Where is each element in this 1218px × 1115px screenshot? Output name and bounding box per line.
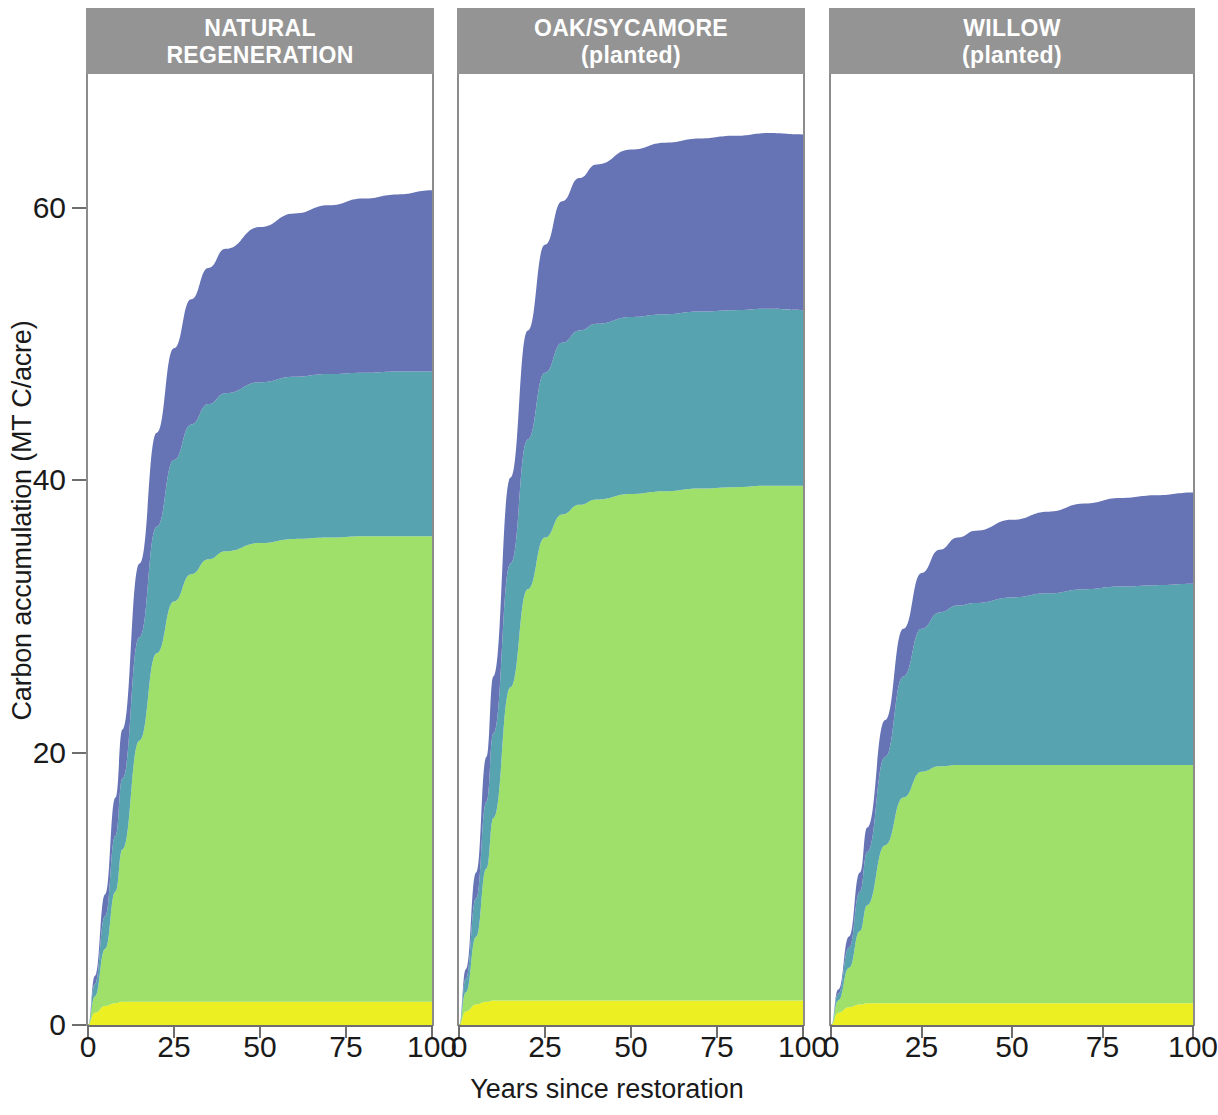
y-tick-label-0: 0: [8, 1008, 66, 1042]
panel-header-3: WILLOW(planted): [829, 8, 1195, 74]
y-tick-label-40: 40: [8, 463, 66, 497]
x-tick-label-50: 50: [995, 1030, 1028, 1064]
panel-title-line2: (planted): [581, 42, 681, 69]
y-axis-label-container: Carbon accumulation (MT C/acre): [0, 0, 46, 1040]
y-tick-mark: [72, 479, 86, 481]
x-tick-label-0: 0: [823, 1030, 840, 1064]
x-tick-label-75: 75: [700, 1030, 733, 1064]
panel-title-line1: WILLOW: [963, 15, 1061, 42]
x-tick-label-100: 100: [778, 1030, 828, 1064]
x-tick-label-25: 25: [528, 1030, 561, 1064]
x-tick-label-0: 0: [451, 1030, 468, 1064]
x-tick-label-100: 100: [1168, 1030, 1218, 1064]
area-layer-understory: [831, 1003, 1193, 1025]
x-tick-label-50: 50: [243, 1030, 276, 1064]
area-layer-understory: [459, 1000, 803, 1025]
x-tick-label-50: 50: [614, 1030, 647, 1064]
y-tick-mark: [72, 1024, 86, 1026]
x-axis-line: [831, 1025, 1193, 1027]
x-tick-label-0: 0: [80, 1030, 97, 1064]
y-tick-mark: [72, 752, 86, 754]
y-axis-label: Carbon accumulation (MT C/acre): [8, 320, 39, 720]
panel-plot-3: [831, 75, 1193, 1025]
panel-plot-1: [88, 75, 432, 1025]
x-axis-label: Years since restoration: [0, 1074, 1214, 1105]
y-tick-mark: [72, 207, 86, 209]
x-axis-line: [88, 1025, 432, 1027]
x-axis-line: [459, 1025, 803, 1027]
panel-title-line1: OAK/SYCAMORE: [534, 15, 728, 42]
y-tick-label-60: 60: [8, 191, 66, 225]
panel-title-line2: (planted): [962, 42, 1062, 69]
y-tick-label-20: 20: [8, 736, 66, 770]
x-tick-label-75: 75: [1086, 1030, 1119, 1064]
panel-header-2: OAK/SYCAMORE(planted): [457, 8, 805, 74]
area-layer-understory: [88, 1002, 432, 1025]
x-tick-label-25: 25: [905, 1030, 938, 1064]
panel-header-1: NATURALREGENERATION: [86, 8, 434, 74]
panel-title-line2: REGENERATION: [166, 42, 353, 69]
x-tick-label-100: 100: [407, 1030, 457, 1064]
panel-title-line1: NATURAL: [204, 15, 316, 42]
panel-plot-2: [459, 75, 803, 1025]
x-tick-label-75: 75: [329, 1030, 362, 1064]
x-tick-label-25: 25: [157, 1030, 190, 1064]
